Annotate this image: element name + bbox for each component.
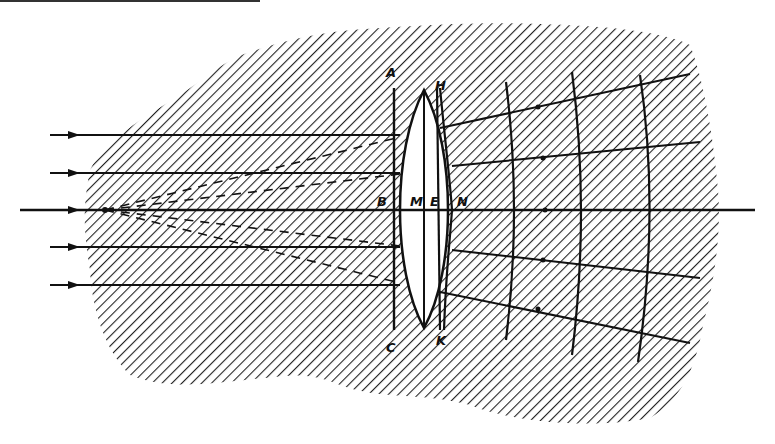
arrowhead-icons bbox=[68, 131, 80, 289]
arrow-right-icon bbox=[68, 206, 80, 214]
label-C: C bbox=[386, 340, 396, 355]
arrow-right-icon bbox=[68, 169, 80, 177]
label-B: B bbox=[377, 194, 387, 209]
focal-point bbox=[102, 207, 108, 213]
arrow-dot-icon bbox=[543, 208, 548, 213]
arrow-right-icon bbox=[68, 243, 80, 251]
arrow-dot-icon bbox=[536, 105, 541, 110]
label-H: H bbox=[435, 78, 446, 93]
label-E: E bbox=[430, 194, 439, 209]
arrow-dot-icon bbox=[541, 156, 546, 161]
arrow-dot-icon bbox=[536, 307, 541, 312]
arrow-right-icon bbox=[68, 131, 80, 139]
label-A: A bbox=[385, 65, 396, 80]
label-N: N bbox=[457, 194, 468, 209]
optics-diagram: A H B M E N C K bbox=[0, 0, 775, 444]
arrow-right-icon bbox=[68, 281, 80, 289]
arrow-dot-icon bbox=[541, 258, 546, 263]
label-K: K bbox=[436, 333, 447, 348]
label-M: M bbox=[410, 194, 423, 209]
